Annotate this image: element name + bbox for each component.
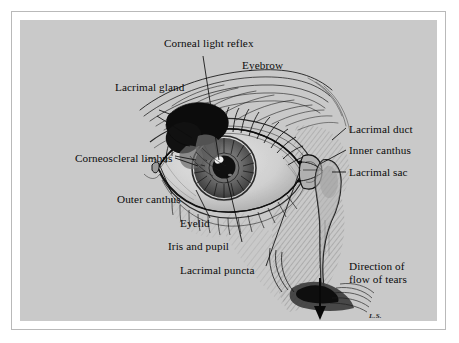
label-eyelid: Eyelid xyxy=(180,217,210,230)
label-lacrimal-sac: Lacrimal sac xyxy=(349,166,408,179)
label-direction-of-flow-line2: flow of tears xyxy=(349,273,407,286)
artist-signature: L.S. xyxy=(369,312,382,320)
label-corneoscleral-limbus: Corneoscleral limbus xyxy=(75,152,172,165)
label-iris-and-pupil: Iris and pupil xyxy=(168,240,229,253)
label-eyebrow: Eyebrow xyxy=(242,59,283,72)
label-lacrimal-gland: Lacrimal gland xyxy=(115,81,184,94)
illustration-ink-group xyxy=(140,56,374,320)
figure-plate: Corneal light reflex Eyebrow Lacrimal gl… xyxy=(20,20,437,321)
figure-frame: Corneal light reflex Eyebrow Lacrimal gl… xyxy=(11,11,446,330)
label-inner-canthus: Inner canthus xyxy=(349,144,411,157)
leader-lacrimal-duct xyxy=(332,128,346,140)
label-lacrimal-duct: Lacrimal duct xyxy=(349,123,413,136)
label-lacrimal-puncta: Lacrimal puncta xyxy=(180,264,255,277)
label-corneal-light-reflex: Corneal light reflex xyxy=(164,37,254,50)
label-outer-canthus: Outer canthus xyxy=(117,193,181,206)
label-direction-of-flow-line1: Direction of xyxy=(349,260,405,273)
